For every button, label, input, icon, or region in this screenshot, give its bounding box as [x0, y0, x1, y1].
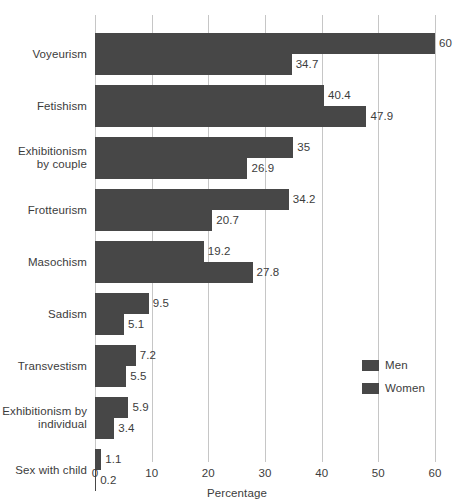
x-tick-30: 30 — [245, 468, 285, 480]
bar-women-7 — [95, 418, 114, 439]
legend-item-women[interactable]: Women — [362, 383, 425, 395]
bar-women-2 — [95, 158, 247, 179]
bar-men-5 — [95, 293, 149, 314]
gridline-0 — [95, 15, 96, 462]
category-label-8: Sex with child — [0, 464, 87, 477]
value-label-men-7: 5.9 — [132, 402, 148, 414]
gridline-30 — [265, 15, 266, 462]
value-label-women-2: 26.9 — [251, 163, 274, 175]
category-label-4: Masochism — [0, 256, 87, 269]
bar-women-1 — [95, 106, 366, 127]
x-tick-20: 20 — [188, 468, 228, 480]
gridline-40 — [322, 15, 323, 462]
value-label-women-0: 34.7 — [296, 59, 319, 71]
value-label-women-5: 5.1 — [128, 319, 144, 331]
value-label-women-4: 27.8 — [257, 267, 280, 279]
value-label-women-7: 3.4 — [118, 423, 134, 435]
bar-men-7 — [95, 397, 128, 418]
bar-women-0 — [95, 54, 292, 75]
x-axis-title: Percentage — [0, 487, 474, 499]
legend-item-men[interactable]: Men — [362, 360, 408, 372]
value-label-men-6: 7.2 — [140, 350, 156, 362]
legend-label-men: Men — [385, 360, 408, 372]
value-label-men-3: 34.2 — [293, 194, 316, 206]
category-label-5: Sadism — [0, 308, 87, 321]
value-label-men-2: 35 — [297, 142, 310, 154]
legend-swatch-women — [362, 383, 379, 394]
category-label-7: Exhibitionism by individual — [0, 405, 87, 431]
category-label-1: Fetishism — [0, 100, 87, 113]
value-label-men-1: 40.4 — [328, 90, 351, 102]
value-label-men-0: 60 — [439, 38, 452, 50]
value-label-men-8: 1.1 — [105, 454, 121, 466]
value-label-women-3: 20.7 — [216, 215, 239, 227]
bar-men-2 — [95, 137, 293, 158]
value-label-women-6: 5.5 — [130, 371, 146, 383]
bar-women-6 — [95, 366, 126, 387]
value-label-men-5: 9.5 — [153, 298, 169, 310]
bar-women-5 — [95, 314, 124, 335]
gridline-10 — [152, 15, 153, 462]
bar-chart: 6034.740.447.93526.934.220.719.227.89.55… — [0, 0, 474, 503]
x-tick-50: 50 — [358, 468, 398, 480]
gridline-50 — [378, 15, 379, 462]
gridline-20 — [208, 15, 209, 462]
bar-men-4 — [95, 241, 204, 262]
value-label-women-1: 47.9 — [370, 111, 393, 123]
category-label-3: Frotteurism — [0, 204, 87, 217]
bar-men-6 — [95, 345, 136, 366]
x-tick-10: 10 — [132, 468, 172, 480]
gridline-60 — [435, 15, 436, 462]
bar-men-1 — [95, 85, 324, 106]
category-label-0: Voyeurism — [0, 48, 87, 61]
bar-women-3 — [95, 210, 212, 231]
value-label-men-4: 19.2 — [208, 246, 231, 258]
bar-men-0 — [95, 33, 435, 54]
bar-women-4 — [95, 262, 253, 283]
x-tick-60: 60 — [415, 468, 455, 480]
category-label-6: Transvestism — [0, 360, 87, 373]
legend-swatch-men — [362, 360, 379, 371]
x-tick-40: 40 — [302, 468, 342, 480]
legend-label-women: Women — [385, 383, 425, 395]
category-label-2: Exhibitionism by couple — [0, 145, 87, 171]
x-tick-0: 0 — [75, 468, 115, 480]
bar-men-3 — [95, 189, 289, 210]
